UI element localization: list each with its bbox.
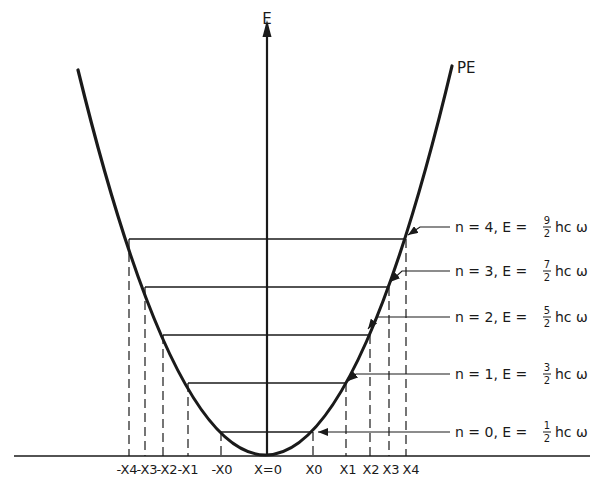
level-label-n4: n = 4, E = 9 2 hc ω bbox=[455, 215, 588, 239]
svg-text:2: 2 bbox=[544, 272, 550, 283]
svg-text:2: 2 bbox=[544, 433, 550, 444]
tick-x1: X1 bbox=[339, 462, 356, 477]
tick-x0: X0 bbox=[305, 462, 322, 477]
level-label-n2: n = 2, E = 5 2 hc ω bbox=[455, 305, 588, 329]
level-label-n3: n = 3, E = 7 2 hc ω bbox=[455, 259, 588, 283]
tick-x2: X2 bbox=[362, 462, 379, 477]
svg-text:2: 2 bbox=[544, 318, 550, 329]
svg-text:n = 0, E =: n = 0, E = bbox=[455, 424, 527, 440]
tick-origin: X=0 bbox=[254, 462, 282, 477]
svg-text:5: 5 bbox=[544, 305, 550, 316]
leader-lines bbox=[318, 227, 450, 432]
level-label-n0: n = 0, E = 1 2 hc ω bbox=[455, 420, 588, 444]
svg-text:9: 9 bbox=[544, 215, 550, 226]
energy-axis-label: E bbox=[262, 10, 271, 28]
svg-text:hc ω: hc ω bbox=[555, 263, 588, 279]
x-tick-labels: -X4 -X3 -X2 -X1 -X0 X=0 X0 X1 X2 X3 X4 bbox=[116, 462, 419, 477]
svg-text:n = 1, E =: n = 1, E = bbox=[455, 366, 527, 382]
svg-text:hc ω: hc ω bbox=[555, 309, 588, 325]
tick-neg-x4: -X4 bbox=[116, 462, 137, 477]
tick-x3: X3 bbox=[382, 462, 399, 477]
tick-neg-x3: -X3 bbox=[136, 462, 157, 477]
tick-neg-x1: -X1 bbox=[177, 462, 198, 477]
svg-text:2: 2 bbox=[544, 228, 550, 239]
svg-text:hc ω: hc ω bbox=[555, 424, 588, 440]
svg-text:7: 7 bbox=[544, 259, 550, 270]
svg-text:n = 3, E =: n = 3, E = bbox=[455, 263, 527, 279]
tick-x4: X4 bbox=[402, 462, 419, 477]
svg-text:3: 3 bbox=[544, 362, 550, 373]
svg-text:hc ω: hc ω bbox=[555, 219, 588, 235]
svg-text:n = 2, E =: n = 2, E = bbox=[455, 309, 527, 325]
level-labels: n = 4, E = 9 2 hc ω n = 3, E = 7 2 hc ω … bbox=[455, 215, 588, 444]
potential-energy-curve bbox=[78, 66, 452, 455]
svg-text:n = 4, E =: n = 4, E = bbox=[455, 219, 527, 235]
svg-text:1: 1 bbox=[544, 420, 550, 431]
energy-axis bbox=[263, 20, 272, 456]
energy-diagram: E PE n = 4, E = 9 2 hc ω n = 3, E = 7 2 … bbox=[0, 0, 602, 501]
tick-neg-x0: -X0 bbox=[211, 462, 232, 477]
level-label-n1: n = 1, E = 3 2 hc ω bbox=[455, 362, 588, 386]
svg-text:hc ω: hc ω bbox=[555, 366, 588, 382]
svg-text:2: 2 bbox=[544, 375, 550, 386]
curve-label-pe: PE bbox=[457, 59, 476, 77]
tick-neg-x2: -X2 bbox=[156, 462, 177, 477]
